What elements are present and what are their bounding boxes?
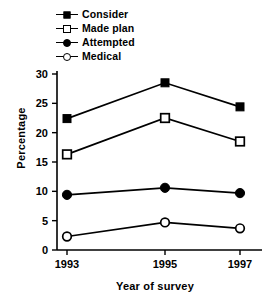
data-point-consider bbox=[63, 115, 71, 123]
y-tick-label: 30 bbox=[36, 68, 48, 80]
y-tick-label: 5 bbox=[42, 215, 48, 227]
series-line-consider bbox=[67, 83, 240, 119]
x-tick-label: 1997 bbox=[228, 258, 252, 270]
series-line-made-plan bbox=[67, 118, 240, 154]
x-tick-label: 1993 bbox=[55, 258, 79, 270]
series-line-attempted bbox=[67, 188, 240, 195]
x-axis-title: Year of survey bbox=[40, 280, 270, 292]
y-tick-label: 15 bbox=[36, 156, 48, 168]
line-chart: Consider Made plan Attempted Medical 051… bbox=[0, 0, 277, 302]
data-point-attempted bbox=[62, 190, 71, 199]
data-point-medical bbox=[161, 218, 170, 227]
y-tick-label: 25 bbox=[36, 97, 48, 109]
y-tick-label: 10 bbox=[36, 185, 48, 197]
data-point-medical bbox=[236, 224, 245, 233]
series-line-medical bbox=[67, 222, 240, 236]
data-point-made-plan bbox=[236, 137, 245, 146]
data-point-medical bbox=[63, 232, 72, 241]
y-axis-title: Percentage bbox=[15, 93, 27, 183]
x-tick-label: 1995 bbox=[153, 258, 177, 270]
y-tick-label: 20 bbox=[36, 127, 48, 139]
data-point-made-plan bbox=[161, 114, 170, 123]
y-tick-label: 0 bbox=[42, 244, 48, 256]
data-point-consider bbox=[236, 103, 244, 111]
data-point-consider bbox=[161, 79, 169, 87]
data-point-attempted bbox=[235, 188, 244, 197]
data-point-attempted bbox=[160, 183, 169, 192]
data-point-made-plan bbox=[63, 150, 72, 159]
plot-area: 051015202530199319951997 bbox=[0, 0, 277, 302]
